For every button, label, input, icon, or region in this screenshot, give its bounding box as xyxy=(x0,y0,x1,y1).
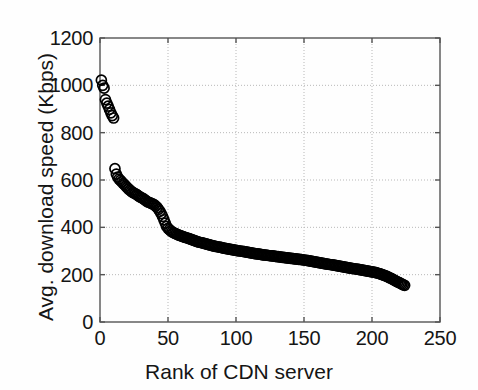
y-axis-title: Avg. download speed (Kbps) xyxy=(34,37,58,337)
x-tick-label: 200 xyxy=(356,327,388,350)
x-tick-label: 50 xyxy=(157,327,179,350)
x-axis-title: Rank of CDN server xyxy=(0,360,478,384)
x-tick-label: 150 xyxy=(288,327,320,350)
x-tick-label: 250 xyxy=(424,327,456,350)
x-tick-label: 100 xyxy=(220,327,252,350)
x-tick-label: 0 xyxy=(95,327,106,350)
chart-figure: 120010008006004002000 050100150200250 Ra… xyxy=(0,0,478,390)
data-points xyxy=(96,75,409,290)
